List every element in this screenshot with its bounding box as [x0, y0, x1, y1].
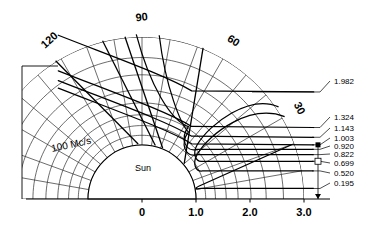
angle-label-60: 60	[225, 32, 242, 49]
ray-value-label-8: 0.195	[334, 179, 355, 188]
angle-label-30: 30	[292, 100, 308, 116]
x-tick-label-1: 1.0	[188, 206, 203, 218]
frequency-label: 100 Mc/s	[50, 135, 92, 154]
sun-label: Sun	[135, 163, 151, 173]
x-tick-label-2: 2.0	[242, 206, 257, 218]
ray-value-label-1: 1.324	[334, 113, 355, 122]
ray-value-label-5: 0.822	[334, 150, 355, 159]
ray-value-label-7: 0.520	[334, 169, 355, 178]
angle-label-90: 90	[135, 10, 148, 23]
ray-value-label-2: 1.143	[334, 124, 355, 133]
ray-value-label-0: 1.982	[334, 77, 355, 86]
x-tick-label-3: 3.0	[296, 206, 311, 218]
diagram-canvas: 01.02.03.01209060301.9821.3241.1431.0030…	[0, 0, 376, 228]
ray-refraction-figure: 01.02.03.01209060301.9821.3241.1431.0030…	[0, 0, 376, 228]
x-tick-label-0: 0	[139, 206, 145, 218]
ray-value-label-6: 0.699	[334, 159, 355, 168]
diagram-labels: 01.02.03.01209060301.9821.3241.1431.0030…	[38, 10, 354, 218]
angle-label-120: 120	[38, 29, 60, 50]
